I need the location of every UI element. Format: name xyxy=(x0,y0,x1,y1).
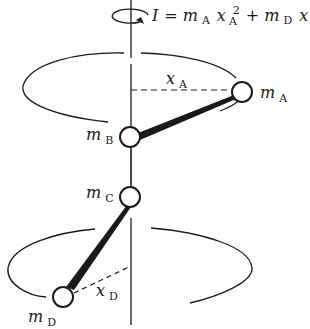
orbit-path-bottom xyxy=(8,228,252,303)
label-mb: m B xyxy=(86,125,113,147)
label-xd: x D xyxy=(96,281,118,303)
mass-d xyxy=(53,287,73,307)
mass-b xyxy=(120,127,140,147)
inertia-diagram: I = m A x A 2 + m D x D 2 x A x D xyxy=(0,0,310,329)
label-mc: m C xyxy=(86,183,114,205)
label-md: m D xyxy=(28,307,56,329)
rod-b-to-a xyxy=(138,95,236,140)
rotation-arrow-icon xyxy=(112,9,148,24)
label-ma: m A xyxy=(260,83,288,105)
formula: I = m A x A 2 + m D x D 2 xyxy=(151,0,310,28)
label-xa: x A xyxy=(166,69,188,91)
mass-c xyxy=(120,187,140,207)
mass-a xyxy=(232,82,252,102)
rod-c-to-d xyxy=(66,205,131,290)
